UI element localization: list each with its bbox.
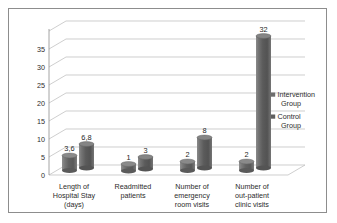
y-tick-20: 20: [37, 99, 45, 108]
value-label-g2-control: 8: [202, 126, 206, 135]
value-label-g2-intervention: 2: [185, 150, 189, 159]
bar-g0-control: [79, 142, 94, 171]
y-tick-35: 35: [37, 45, 45, 54]
legend-marker-intervention-icon: [271, 93, 275, 97]
cat-label-3-line-0: Number of: [235, 182, 269, 191]
bar-g3-intervention: [239, 159, 254, 173]
y-tick-5: 5: [41, 153, 45, 162]
chart-figure: 0 5 10 15 20 25 30 35 3,6: [0, 0, 337, 223]
value-label-g0-intervention: 3,6: [64, 144, 74, 153]
chart-frame: 0 5 10 15 20 25 30 35 3,6: [8, 8, 327, 213]
cat-label-2-line-1: emergency: [174, 191, 210, 200]
cat-label-3-line-2: clinic visits: [235, 200, 269, 209]
cat-label-0-line-2: (days): [64, 200, 84, 209]
legend-marker-control-icon: [271, 115, 275, 119]
bar-g2-intervention: [180, 159, 195, 173]
cat-label-0-line-1: Hospital Stay: [53, 191, 96, 200]
legend-label-control-line-1[interactable]: Group: [281, 121, 301, 130]
value-label-g3-control: 32: [259, 25, 267, 34]
y-tick-10: 10: [37, 135, 45, 144]
bar-g2-control: [197, 135, 212, 170]
y-axis-tick-labels: 0 5 10 15 20 25 30 35: [37, 45, 45, 180]
value-label-g1-intervention: 1: [126, 153, 130, 162]
chart-legend: Intervention Group Control Group: [271, 90, 315, 130]
y-tick-15: 15: [37, 117, 45, 126]
value-label-g0-control: 6,8: [81, 133, 91, 142]
x-axis-category-labels: Length of Hospital Stay (days) Readmitte…: [53, 182, 270, 209]
bar-g3-control: [256, 34, 271, 171]
cat-label-2-line-0: Number of: [175, 182, 209, 191]
legend-label-intervention-line-0[interactable]: Intervention: [278, 90, 316, 99]
value-label-g3-intervention: 2: [244, 150, 248, 159]
cat-label-0-line-0: Length of: [59, 182, 89, 191]
y-tick-30: 30: [37, 63, 45, 72]
bar-chart-3d: 0 5 10 15 20 25 30 35 3,6: [9, 9, 326, 212]
legend-label-intervention-line-1[interactable]: Group: [281, 99, 301, 108]
cat-label-1-line-1: patients: [120, 191, 146, 200]
bar-g1-control: [138, 155, 153, 172]
cat-label-2-line-2: room visits: [175, 200, 210, 209]
y-tick-0: 0: [41, 171, 45, 180]
value-label-g1-control: 3: [143, 146, 147, 155]
cat-label-3-line-1: out-patient: [235, 191, 269, 200]
bar-g1-intervention: [121, 162, 136, 174]
cat-label-1-line-0: Readmitted: [115, 182, 152, 191]
y-tick-25: 25: [37, 81, 45, 90]
legend-label-control-line-0[interactable]: Control: [278, 112, 302, 121]
bar-g0-intervention: [62, 153, 77, 173]
